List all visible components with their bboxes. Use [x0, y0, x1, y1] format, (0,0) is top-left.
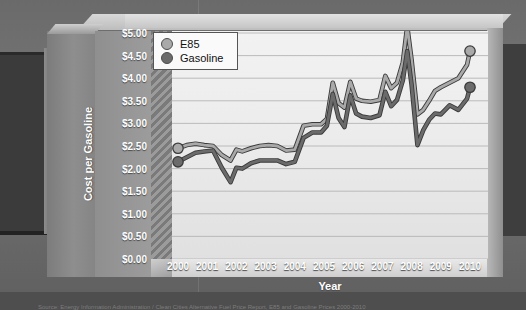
- chart-3d-top-face-inner: [125, 14, 503, 28]
- legend-item[interactable]: Gasoline: [161, 51, 223, 65]
- x-axis-tick-label: 2009: [430, 261, 452, 272]
- y-axis-tick-label: $0.50: [122, 231, 147, 242]
- x-axis-tick-label: 2003: [254, 261, 276, 272]
- x-axis-tick-label: 2001: [196, 261, 218, 272]
- y-axis-tick-label: $1.00: [122, 208, 147, 219]
- y-axis-tick-label: $2.50: [122, 141, 147, 152]
- y-axis-tick-label: $2.00: [122, 163, 147, 174]
- source-caption: Source: Energy Information Administratio…: [38, 303, 508, 310]
- background-right-panel: [500, 44, 526, 236]
- y-axis-tick-label: $4.00: [122, 73, 147, 84]
- y-axis-tick-label: $5.00: [122, 28, 147, 39]
- y-axis-tick-label: $0.00: [122, 254, 147, 265]
- chart-legend: E85 Gasoline: [153, 32, 238, 70]
- x-axis-tick-label: 2006: [342, 261, 364, 272]
- legend-dot-icon: [161, 52, 173, 64]
- legend-label: Gasoline: [180, 52, 223, 64]
- x-axis-tick-label: 2007: [371, 261, 393, 272]
- y-axis-tick-label: $3.00: [122, 118, 147, 129]
- y-axis-tick-label: $4.50: [122, 50, 147, 61]
- legend-label: E85: [180, 38, 200, 50]
- chart-3d-right-wall: [487, 28, 503, 277]
- legend-item[interactable]: E85: [161, 37, 223, 51]
- background-left-panel: [0, 52, 47, 235]
- chart-3d-left-wall: Cost per Gasoline Gallon Equivalent: [47, 31, 95, 277]
- x-axis-tick-label: 2008: [400, 261, 422, 272]
- x-axis-tick-label: 2000: [167, 261, 189, 272]
- x-axis-tick-label: 2010: [459, 261, 481, 272]
- y-axis-tick-label: $3.50: [122, 95, 147, 106]
- legend-dot-icon: [161, 38, 173, 50]
- x-axis-title: Year: [172, 280, 488, 292]
- x-axis-tick-label: 2004: [284, 261, 306, 272]
- y-axis-title-line1: Cost per Gasoline: [82, 69, 94, 239]
- x-axis-tick-label: 2002: [225, 261, 247, 272]
- x-axis-tick-label: 2005: [313, 261, 335, 272]
- line-chart: Cost per Gasoline Gallon Equivalent $0.0…: [47, 14, 503, 295]
- y-axis-tick-label: $1.50: [122, 186, 147, 197]
- y-axis-tick-labels: $0.00$0.50$1.00$1.50$2.00$2.50$3.00$3.50…: [95, 31, 151, 259]
- x-axis-tick-labels: 2000200120022003200420052006200720082009…: [172, 260, 488, 276]
